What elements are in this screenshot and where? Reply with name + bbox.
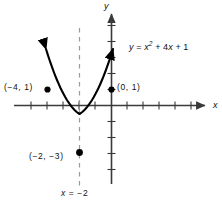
parabola-right-branch	[80, 49, 114, 114]
equation-lhs: y	[129, 42, 134, 52]
axis-of-symmetry-label: x = −2	[61, 189, 88, 198]
equation-term3: + 1	[175, 42, 188, 52]
equation-equals: =	[136, 42, 141, 52]
parabola-graph-figure: y x (−4, 1) (0, 1) (−2, −3) x = −2 y = x…	[0, 0, 222, 206]
equation-term2: + 4x	[155, 42, 173, 52]
point-vertex-minus2-minus3	[76, 149, 83, 156]
x-axis	[14, 102, 205, 110]
point-minus4-1	[44, 86, 50, 92]
y-axis-label: y	[104, 2, 109, 11]
x-axis-label: x	[213, 101, 218, 110]
vertex-label: (−2, −3)	[29, 152, 64, 161]
point-0-1	[108, 86, 114, 92]
equation-term1-exponent: 2	[149, 40, 153, 47]
graph-canvas	[0, 0, 222, 206]
equation-label: y = x2 + 4x + 1	[129, 43, 188, 52]
y-axis	[108, 14, 116, 184]
parabola-curve	[46, 45, 113, 152]
symmetry-value: = −2	[66, 188, 88, 198]
point-label-0-1: (0, 1)	[117, 83, 140, 92]
point-label-minus4-1: (−4, 1)	[4, 83, 33, 92]
